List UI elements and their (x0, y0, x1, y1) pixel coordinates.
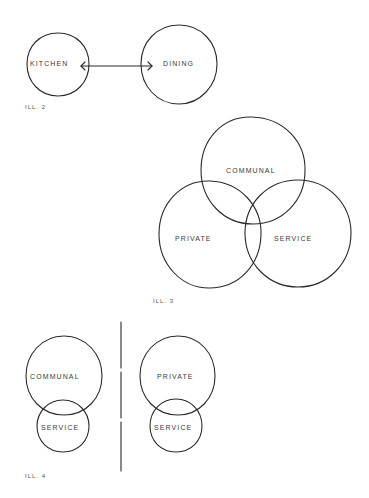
service-label-left: SERVICE (41, 424, 79, 431)
communal-label-left: COMMUNAL (30, 373, 80, 380)
ill2-caption: ILL. 2 (25, 104, 46, 110)
communal-label: COMMUNAL (226, 167, 276, 174)
ill3-group: COMMUNAL PRIVATE SERVICE ILL. 3 (153, 117, 351, 304)
private-label: PRIVATE (175, 235, 212, 242)
ill4-group: COMMUNAL SERVICE PRIVATE SERVICE ILL. 4 (25, 322, 215, 479)
dining-label: DINING (163, 60, 194, 67)
diagram-canvas: KITCHEN DINING ILL. 2 COMMUNAL PRIVATE S… (0, 0, 369, 498)
service-label-right: SERVICE (154, 424, 192, 431)
ill4-caption: ILL. 4 (25, 473, 46, 479)
ill2-group: KITCHEN DINING ILL. 2 (25, 25, 217, 110)
kitchen-label: KITCHEN (30, 60, 68, 67)
service-label: SERVICE (274, 235, 312, 242)
ill3-caption: ILL. 3 (153, 298, 174, 304)
private-label-right: PRIVATE (157, 373, 194, 380)
